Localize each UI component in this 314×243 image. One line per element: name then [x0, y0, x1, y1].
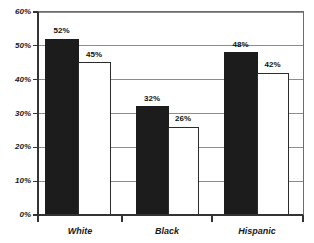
ytick-label-60: 60% [15, 7, 31, 16]
x-axis-labels: White Black Hispanic [68, 226, 276, 236]
value-label-black-series1: 32% [144, 94, 160, 103]
bar-hispanic-series2[interactable] [257, 73, 288, 215]
ytick-label-40: 40% [14, 75, 31, 84]
bar-group-white [45, 39, 110, 215]
bar-white-series2[interactable] [78, 63, 110, 215]
bar-chart: 60% 50% 40% 30% 20% 10% 0% 52% 45% 32% [0, 0, 314, 243]
xtick-label-black: Black [155, 226, 180, 236]
value-label-hispanic-series1: 48% [232, 40, 248, 49]
value-label-white-series1: 52% [53, 26, 69, 35]
bar-black-series2[interactable] [168, 127, 198, 215]
value-label-black-series2: 26% [175, 114, 191, 123]
xtick-label-hispanic: Hispanic [238, 226, 276, 236]
ytick-label-20: 20% [14, 142, 31, 151]
ytick-label-10: 10% [15, 176, 31, 185]
xtick-label-white: White [68, 226, 93, 236]
y-axis-labels: 60% 50% 40% 30% 20% 10% 0% [14, 7, 31, 219]
chart-canvas: 60% 50% 40% 30% 20% 10% 0% 52% 45% 32% [0, 0, 314, 243]
ytick-label-50: 50% [15, 41, 31, 50]
bar-hispanic-series1[interactable] [224, 53, 257, 215]
x-axis-ticks [38, 215, 303, 222]
ytick-label-0: 0% [19, 210, 31, 219]
ytick-label-30: 30% [15, 109, 31, 118]
value-label-hispanic-series2: 42% [264, 60, 280, 69]
value-label-white-series2: 45% [86, 50, 102, 59]
bar-white-series1[interactable] [45, 39, 78, 215]
bar-group-hispanic [224, 53, 288, 215]
bar-black-series1[interactable] [136, 107, 168, 215]
bar-group-black [136, 107, 198, 215]
